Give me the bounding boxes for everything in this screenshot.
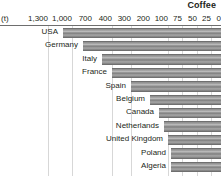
category-label: Algeria [141, 161, 166, 171]
axis-tick-label: 0 [217, 14, 221, 24]
chart-row: Germany [0, 39, 221, 51]
axis-tick-label: 100 [155, 14, 168, 24]
axis-tick-label: 75 [173, 14, 182, 24]
bar [159, 108, 221, 119]
category-label: Spain [106, 81, 126, 91]
bar [131, 81, 221, 92]
axis-tick-label: 50 [188, 14, 197, 24]
category-label: USA [42, 27, 58, 37]
axis-tick-label: 200 [137, 14, 150, 24]
category-label: Italy [82, 54, 97, 64]
category-label: Canada [126, 107, 154, 117]
chart-row: Belgium [0, 93, 221, 105]
chart-row: United Kingdom [0, 133, 221, 145]
chart-row: Italy [0, 53, 221, 65]
chart-row: Canada [0, 106, 221, 118]
category-label: Poland [141, 148, 166, 158]
axis-unit-label: (t) [1, 14, 9, 24]
bar [63, 28, 221, 39]
chart-row: France [0, 66, 221, 78]
category-label: Netherlands [116, 121, 159, 131]
bar [102, 54, 221, 65]
axis-tick-label: 25 [202, 14, 211, 24]
coffee-bar-chart: Coffee (t) 1,3001,0007004003002001007550… [0, 0, 221, 176]
bar [164, 121, 221, 132]
category-label: Belgium [116, 94, 145, 104]
chart-row: USA [0, 26, 221, 38]
chart-row: Netherlands [0, 120, 221, 132]
bar [112, 68, 221, 79]
category-label: United Kingdom [106, 134, 163, 144]
chart-x-axis: (t) 1,3001,0007004003002001007550250 [0, 14, 221, 25]
chart-row: Spain [0, 80, 221, 92]
bar [150, 95, 221, 106]
bar [171, 162, 221, 173]
bar [168, 135, 221, 146]
chart-plot-area: USAGermanyItalyFranceSpainBelgiumCanadaN… [0, 26, 221, 176]
category-label: Germany [45, 40, 78, 50]
bar [171, 148, 221, 159]
chart-row: Poland [0, 147, 221, 159]
axis-tick-label: 400 [99, 14, 112, 24]
category-label: France [82, 67, 107, 77]
axis-tick-label: 1,000 [52, 14, 72, 24]
axis-tick-label: 700 [79, 14, 92, 24]
axis-tick-label: 300 [118, 14, 131, 24]
axis-tick-label: 1,300 [28, 14, 48, 24]
chart-series-title: Coffee [187, 0, 216, 11]
chart-row: Algeria [0, 160, 221, 172]
bar [83, 41, 221, 52]
